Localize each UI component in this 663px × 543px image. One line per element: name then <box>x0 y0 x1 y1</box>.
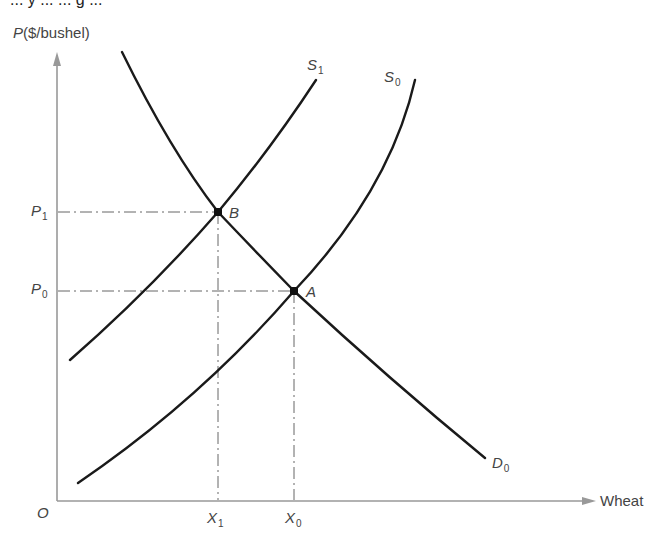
y-axis-variable: P <box>13 24 23 41</box>
point-a-marker <box>290 287 298 295</box>
supply-curve-s1 <box>70 80 316 360</box>
demand-curve-d0 <box>122 52 485 458</box>
y-axis-label: P($/bushel) <box>13 25 90 40</box>
axes <box>53 52 596 505</box>
point-a-label: A <box>306 284 316 299</box>
s1-curve-label: S1 <box>307 57 324 72</box>
x-axis-arrow-icon <box>582 497 596 505</box>
supply-curve-s0 <box>78 80 415 483</box>
d0-curve-label: D0 <box>492 455 509 470</box>
supply-demand-diagram <box>0 0 663 543</box>
origin-label: O <box>37 505 49 520</box>
s0-curve-label: S0 <box>384 69 401 84</box>
x1-label: X1 <box>207 510 224 525</box>
point-b-label: B <box>229 205 239 220</box>
y-axis-unit: ($/bushel) <box>23 24 90 41</box>
p1-label: P1 <box>31 203 48 218</box>
x-axis-label: Wheat <box>600 493 643 508</box>
p0-label: P0 <box>31 281 48 296</box>
point-b-marker <box>214 208 222 216</box>
curves <box>70 52 485 483</box>
x0-label: X0 <box>285 510 302 525</box>
y-axis-arrow-icon <box>53 52 61 66</box>
